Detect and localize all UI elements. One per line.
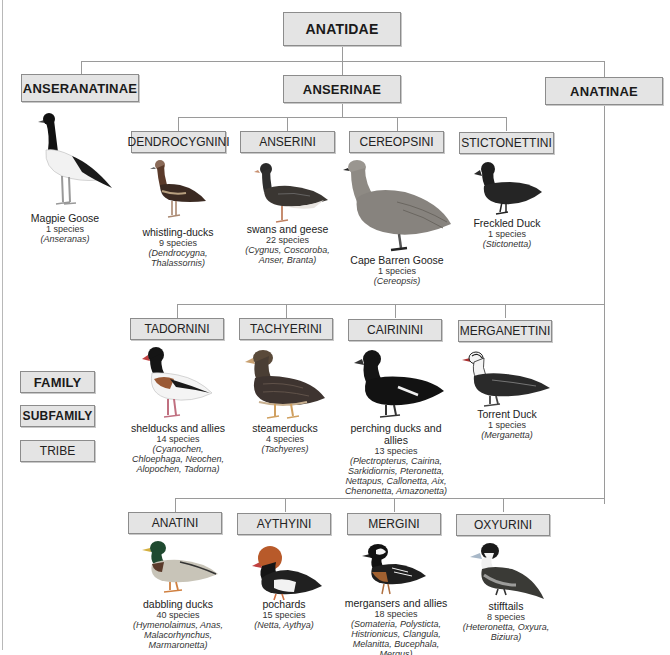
connector xyxy=(394,498,395,512)
tribe-box-cairinini: CAIRININI xyxy=(348,319,442,341)
tribe-box-tachyerini: TACHYERINI xyxy=(239,318,333,340)
page-left-border xyxy=(2,0,3,650)
common-name: Freckled Duck xyxy=(462,217,552,229)
common-name: Cape Barren Goose xyxy=(347,254,447,266)
species-caption-magpie-goose: Magpie Goose 1 species (Anseranas) xyxy=(20,212,110,244)
freckled-duck-illustration-icon xyxy=(472,160,544,216)
tribe-label: TADORNINI xyxy=(144,322,209,336)
common-name: Torrent Duck xyxy=(462,408,552,420)
common-name: whistling-ducks xyxy=(133,226,223,238)
connector xyxy=(286,304,287,318)
species-count: 1 species xyxy=(462,229,552,239)
tribe-label: CAIRININI xyxy=(367,323,423,337)
genera-list: Alopochen, Tadorna) xyxy=(128,464,228,474)
connector xyxy=(604,61,605,77)
tribe-box-aythyini: AYTHYINI xyxy=(237,513,331,535)
connector xyxy=(287,117,288,131)
connector xyxy=(175,498,605,499)
goose-illustration-icon xyxy=(254,160,330,224)
subfamily-box-anatinae: ANATINAE xyxy=(545,77,663,105)
tribe-box-stictonettini: STICTONETTINI xyxy=(459,132,554,154)
legend-label: SUBFAMILY xyxy=(22,409,92,423)
tribe-label: ANSERINI xyxy=(259,135,316,149)
tribe-box-merganettini: MERGANETTINI xyxy=(458,320,552,342)
species-count: 22 species xyxy=(240,235,335,245)
genera-list: Histrionicus, Clangula, xyxy=(342,629,450,639)
tribe-label: DENDROCYGNINI xyxy=(128,135,230,149)
genera-list: Chenonetta, Amazonetta) xyxy=(342,486,450,496)
genera-list: (Cyanochen, xyxy=(128,444,228,454)
genera-list: (Stictonetta) xyxy=(462,239,552,249)
species-caption-pochards: pochards 15 species (Netta, Aythya) xyxy=(239,598,329,630)
connector xyxy=(342,61,343,75)
whistling-duck-illustration-icon xyxy=(150,157,210,223)
species-caption-freckled-duck: Freckled Duck 1 species (Stictonetta) xyxy=(462,217,552,249)
connector xyxy=(342,101,343,118)
species-caption-shelducks: shelducks and allies 14 species (Cyanoch… xyxy=(128,422,228,474)
genera-list: Chloephaga, Neochen, xyxy=(128,454,228,464)
connector xyxy=(178,117,506,118)
tribe-box-oxyurini: OXYURINI xyxy=(456,514,550,536)
genera-list: Marmaronetta) xyxy=(128,640,228,650)
muscovy-duck-illustration-icon xyxy=(352,347,446,421)
merganser-illustration-icon xyxy=(362,542,428,598)
species-caption-cape-barren-goose: Cape Barren Goose 1 species (Cereopsis) xyxy=(347,254,447,286)
genera-list: Biziura) xyxy=(458,632,554,642)
connector xyxy=(397,117,398,131)
species-count: 18 species xyxy=(342,609,450,619)
genera-list: (Merganetta) xyxy=(462,430,552,440)
common-name: pochards xyxy=(239,598,329,610)
tribe-label: CEREOPSINI xyxy=(359,135,433,149)
tribe-box-anserini: ANSERINI xyxy=(240,131,335,153)
common-name: shelducks and allies xyxy=(128,422,228,434)
species-count: 14 species xyxy=(128,434,228,444)
species-count: 15 species xyxy=(239,610,329,620)
connector xyxy=(395,304,396,318)
connector xyxy=(175,498,176,512)
subfamily-label: ANSERINAE xyxy=(303,82,381,97)
common-name: steamerducks xyxy=(240,422,330,434)
species-caption-stifftails: stifftails 8 species (Heteronetta, Oxyur… xyxy=(458,600,554,642)
subfamily-label: ANATINAE xyxy=(570,84,638,99)
subfamily-box-anserinae: ANSERINAE xyxy=(283,75,401,103)
tribe-box-anatini: ANATINI xyxy=(128,512,222,534)
genera-list: Sarkidiornis, Pteronetta, xyxy=(342,466,450,476)
genera-list: Thalassornis) xyxy=(133,258,223,268)
tribe-box-cereopsini: CEREOPSINI xyxy=(349,131,444,153)
genera-list: (Anseranas) xyxy=(20,234,110,244)
tribe-label: MERGANETTINI xyxy=(460,324,551,338)
genera-list: Mergus) xyxy=(342,649,450,655)
pochard-illustration-icon xyxy=(252,540,324,602)
genera-list: (Hymenolaimus, Anas, xyxy=(128,620,228,630)
genera-list: (Cereopsis) xyxy=(347,276,447,286)
connector xyxy=(503,498,504,512)
steamerduck-illustration-icon xyxy=(243,346,327,420)
connector xyxy=(177,304,178,318)
subfamily-box-anseranatinae: ANSERANATINAE xyxy=(21,74,139,102)
common-name: stifftails xyxy=(458,600,554,612)
cape-barren-goose-illustration-icon xyxy=(343,158,455,254)
species-caption-whistling-ducks: whistling-ducks 9 species (Dendrocygna, … xyxy=(133,226,223,268)
species-count: 1 species xyxy=(20,224,110,234)
common-name: dabbling ducks xyxy=(128,598,228,610)
connector xyxy=(505,304,506,318)
legend-family: FAMILY xyxy=(20,371,95,393)
legend-label: FAMILY xyxy=(34,375,82,390)
species-count: 13 species xyxy=(342,446,450,456)
tribe-box-dendrocygnini: DENDROCYGNINI xyxy=(131,131,226,153)
genera-list: (Plectropterus, Cairina, xyxy=(342,456,450,466)
legend-tribe: TRIBE xyxy=(20,440,95,462)
magpie-goose-illustration-icon xyxy=(36,106,116,214)
tribe-box-mergini: MERGINI xyxy=(347,513,441,535)
legend-label: TRIBE xyxy=(40,444,75,458)
species-caption-steamerducks: steamerducks 4 species (Tachyeres) xyxy=(240,422,330,454)
tribe-box-tadornini: TADORNINI xyxy=(130,318,224,340)
connector xyxy=(81,61,82,75)
connector xyxy=(506,117,507,131)
tribe-label: ANATINI xyxy=(152,516,198,530)
species-count: 8 species xyxy=(458,612,554,622)
genera-list: Melanitta, Bucephala, xyxy=(342,639,450,649)
genera-list: Malacorhynchus, xyxy=(128,630,228,640)
shelduck-illustration-icon xyxy=(140,345,216,421)
tribe-label: TACHYERINI xyxy=(250,322,322,336)
